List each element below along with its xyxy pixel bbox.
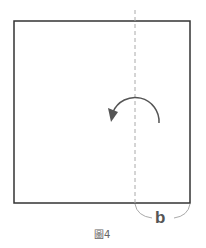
paper-square	[14, 21, 190, 203]
arrowhead-icon	[108, 108, 118, 122]
dimension-label-b: b	[155, 208, 165, 228]
fold-arrow-icon	[113, 97, 159, 123]
brace-right	[174, 204, 190, 218]
diagram-canvas	[0, 0, 206, 248]
brace-left	[135, 204, 152, 218]
figure-caption: 圖4	[94, 226, 110, 241]
